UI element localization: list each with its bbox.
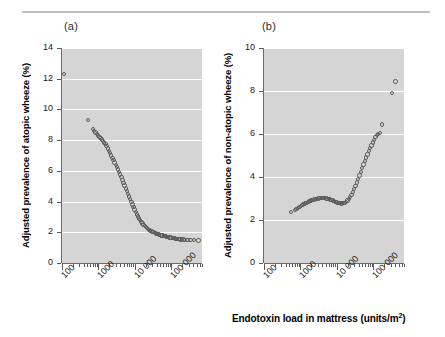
x-tick-minor: [124, 264, 125, 267]
x-tick-minor: [333, 264, 334, 267]
x-tick-minor: [359, 264, 360, 267]
x-tick-minor: [399, 264, 400, 267]
gridline: [62, 79, 202, 80]
data-point-marker: [62, 72, 66, 76]
y-tick: [57, 48, 61, 49]
x-tick-minor: [160, 264, 161, 267]
y-axis-title-b: Adjusted prevalence of non-atopic wheeze…: [222, 44, 233, 266]
data-point-marker: [196, 238, 200, 242]
y-tick-label: 0: [31, 257, 53, 267]
data-point-marker: [355, 180, 359, 184]
plot-area-a: [62, 48, 202, 263]
x-tick-minor: [202, 264, 203, 267]
figure-container: (a) (b) Adjusted prevalence of atopic wh…: [0, 0, 445, 337]
x-tick-minor: [281, 264, 282, 267]
x-tick-minor: [395, 264, 396, 267]
x-tick-minor: [368, 264, 369, 267]
y-tick: [57, 140, 61, 141]
y-tick: [259, 91, 263, 92]
x-tick-minor: [131, 264, 132, 267]
y-tick-label: 2: [233, 214, 255, 224]
y-tick: [57, 263, 61, 264]
gridline: [62, 140, 202, 141]
x-tick-minor: [362, 264, 363, 267]
y-axis-line-b: [263, 48, 264, 263]
y-tick: [57, 171, 61, 172]
x-tick-minor: [200, 264, 201, 267]
x-tick-minor: [87, 264, 88, 267]
x-axis-title-tail: ): [402, 313, 405, 324]
x-tick-minor: [84, 264, 85, 267]
y-tick-label: 12: [31, 73, 53, 83]
x-tick-minor: [93, 264, 94, 267]
y-tick: [57, 232, 61, 233]
x-tick-minor: [168, 264, 169, 267]
y-tick-label: 6: [233, 128, 255, 138]
gridline: [264, 91, 404, 92]
data-point-marker: [390, 91, 394, 95]
data-point-marker: [378, 131, 382, 135]
gridline: [264, 48, 404, 49]
y-tick-label: 4: [31, 196, 53, 206]
gridline: [62, 232, 202, 233]
gridline: [264, 134, 404, 135]
x-tick-minor: [292, 264, 293, 267]
x-tick-minor: [90, 264, 91, 267]
x-tick-minor: [129, 264, 130, 267]
y-axis-line-a: [61, 48, 62, 263]
x-tick-minor: [329, 264, 330, 267]
gridline: [264, 177, 404, 178]
y-tick: [259, 177, 263, 178]
gridline: [62, 109, 202, 110]
x-tick-minor: [157, 264, 158, 267]
x-axis-title-text: Endotoxin load in mattress (units/m: [232, 313, 399, 324]
y-tick: [259, 263, 263, 264]
x-tick-minor: [297, 264, 298, 267]
y-tick-label: 6: [31, 165, 53, 175]
y-tick: [57, 202, 61, 203]
x-tick-minor: [163, 264, 164, 267]
top-rule-divider: [22, 11, 430, 13]
panel-label-b: (b): [262, 20, 276, 32]
y-tick-label: 14: [31, 42, 53, 52]
y-tick: [259, 48, 263, 49]
x-tick-minor: [289, 264, 290, 267]
y-tick: [57, 79, 61, 80]
data-point-marker: [359, 170, 363, 174]
y-axis-title-a: Adjusted prevalence of atopic wheeze (%): [20, 47, 31, 265]
x-tick-minor: [197, 264, 198, 267]
x-tick-minor: [326, 264, 327, 267]
x-tick-minor: [404, 264, 405, 267]
y-tick-label: 2: [31, 226, 53, 236]
y-tick-label: 4: [233, 171, 255, 181]
gridline: [264, 220, 404, 221]
x-axis-title: Endotoxin load in mattress (units/m2): [232, 312, 406, 324]
y-tick-label: 0: [233, 257, 255, 267]
x-tick-minor: [322, 264, 323, 267]
x-tick-minor: [286, 264, 287, 267]
data-point-marker: [393, 79, 397, 83]
gridline: [62, 171, 202, 172]
x-tick-minor: [193, 264, 194, 267]
x-tick-minor: [127, 264, 128, 267]
data-point-marker: [86, 118, 90, 122]
gridline: [62, 48, 202, 49]
panel-label-a: (a): [64, 20, 78, 32]
y-tick: [259, 220, 263, 221]
x-tick-minor: [166, 264, 167, 267]
plot-area-b: [264, 48, 404, 263]
x-tick-minor: [402, 264, 403, 267]
x-tick-minor: [120, 264, 121, 267]
y-tick: [259, 134, 263, 135]
x-tick-minor: [79, 264, 80, 267]
data-point-marker: [380, 122, 384, 126]
y-tick-label: 8: [31, 134, 53, 144]
x-tick-minor: [365, 264, 366, 267]
x-tick-minor: [295, 264, 296, 267]
y-tick-label: 8: [233, 85, 255, 95]
x-tick-minor: [331, 264, 332, 267]
y-tick-label: 10: [233, 42, 255, 52]
x-tick-minor: [370, 264, 371, 267]
y-tick: [57, 109, 61, 110]
y-tick-label: 10: [31, 103, 53, 113]
